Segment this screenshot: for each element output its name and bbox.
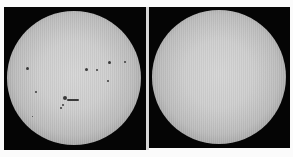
sunspot [26,67,29,70]
solar-comparison-figure [0,0,293,157]
sunspot [62,104,64,106]
sunspot [124,61,126,63]
sunspot [96,69,98,71]
sunspot [35,91,37,93]
sunspot [85,68,88,71]
sun-panel-with-sunspots [4,7,146,150]
solar-disk-spotless [152,10,286,144]
sunspot [60,107,62,109]
sunspot [32,116,33,117]
sun-panel-spotless [149,7,290,148]
solar-disk-spotted [7,11,141,145]
sunspot [107,80,109,82]
sunspot [108,61,111,64]
sunspot [67,99,79,101]
